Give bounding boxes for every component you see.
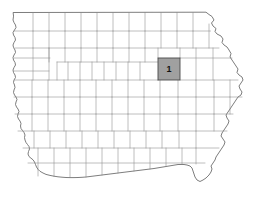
map-svg: 1 xyxy=(0,0,259,197)
iowa-county-map: 1 xyxy=(0,0,259,197)
highlighted-county-label: 1 xyxy=(166,64,171,74)
